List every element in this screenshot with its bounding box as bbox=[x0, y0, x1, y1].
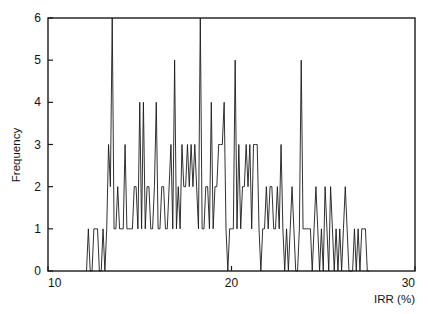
y-tick-label-3: 3 bbox=[34, 138, 41, 152]
y-tick-label-0: 0 bbox=[34, 264, 41, 278]
y-tick-label-5: 5 bbox=[34, 53, 41, 67]
x-tick-label-20: 20 bbox=[225, 276, 239, 290]
y-tick-label-4: 4 bbox=[34, 95, 41, 109]
frequency-polygon-chart: 0123456 102030 Frequency IRR (%) bbox=[0, 0, 429, 314]
x-tick-label-30: 30 bbox=[402, 276, 416, 290]
y-tick-label-6: 6 bbox=[34, 11, 41, 25]
y-tick-label-1: 1 bbox=[34, 222, 41, 236]
x-tick-label-10: 10 bbox=[48, 276, 62, 290]
y-axis-title: Frequency bbox=[10, 128, 22, 183]
y-tick-label-2: 2 bbox=[34, 180, 41, 194]
chart-background bbox=[0, 0, 429, 314]
chart-canvas: 0123456 102030 Frequency IRR (%) bbox=[0, 0, 429, 314]
x-axis-title: IRR (%) bbox=[374, 293, 415, 305]
